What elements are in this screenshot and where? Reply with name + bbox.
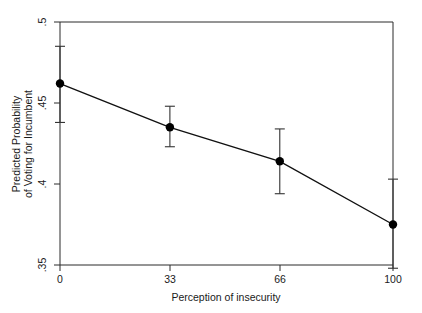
y-tick-label-3: .35 — [36, 258, 48, 273]
data-point-1 — [166, 123, 174, 131]
y-tick-label-1: .45 — [36, 96, 48, 111]
y-axis-title: Predicted Probability of Voting for Incu… — [10, 90, 34, 198]
x-tick-label-0: 0 — [57, 273, 63, 285]
data-point-3 — [389, 220, 397, 228]
chart-background — [0, 0, 422, 313]
data-point-2 — [276, 157, 284, 165]
y-tick-label-2: .4 — [36, 179, 48, 188]
x-tick-label-3: 100 — [384, 273, 402, 285]
y-tick-label-0: .5 — [36, 17, 48, 26]
x-tick-label-2: 66 — [274, 273, 286, 285]
y-axis-title-line-2: of Voting for Incumbent — [22, 90, 34, 198]
x-axis-title: Perception of insecurity — [171, 291, 281, 303]
data-point-0 — [56, 79, 64, 87]
y-axis-title-line-1: Predicted Probability — [10, 95, 22, 192]
predicted-probability-line-chart: .5 .45 .4 .35 Predicted Probability of V… — [0, 0, 422, 313]
x-tick-label-1: 33 — [164, 273, 176, 285]
chart-figure: .5 .45 .4 .35 Predicted Probability of V… — [0, 0, 422, 313]
